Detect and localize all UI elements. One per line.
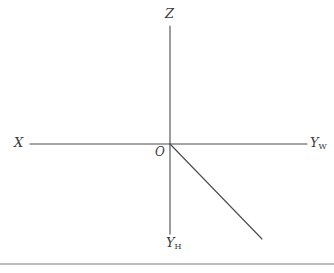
y-world-axis-label-text: Y (310, 135, 319, 150)
z-axis-label-text: Z (165, 6, 174, 21)
axis-diagram-svg (0, 0, 334, 273)
y-home-axis-subscript: H (175, 242, 182, 251)
x-axis-label-text: X (14, 135, 23, 150)
y-world-axis-subscript: W (319, 142, 327, 151)
origin-label: O (155, 146, 165, 158)
y-home-axis-label-text: Y (166, 235, 175, 250)
figure-canvas: Z X YW YH O (0, 0, 334, 273)
z-axis-label: Z (165, 7, 174, 20)
x-axis-label: X (14, 136, 23, 149)
diagonal-ray-line (170, 144, 262, 239)
y-world-axis-label: YW (310, 136, 327, 151)
origin-label-text: O (155, 145, 165, 159)
y-home-axis-label: YH (166, 236, 182, 251)
